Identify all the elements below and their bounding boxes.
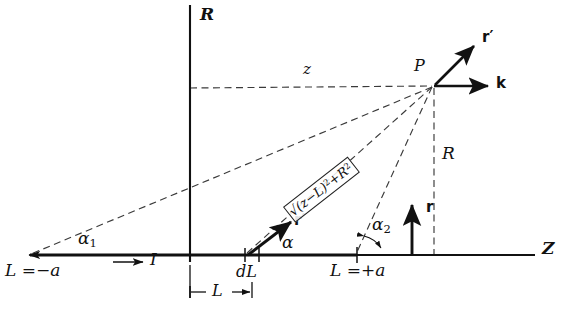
alpha-label: α bbox=[282, 234, 293, 251]
z-axis-label: Z bbox=[542, 240, 554, 257]
vector-label-r-prime-at-P: r′ bbox=[482, 30, 493, 45]
alpha1-label: α1 bbox=[78, 230, 97, 250]
vector-r-prime-at-P bbox=[435, 46, 474, 85]
alpha2-arc bbox=[364, 236, 381, 248]
vector-label-k: k bbox=[496, 76, 506, 91]
alpha2-base: α bbox=[372, 214, 383, 234]
alpha1-subscript: 1 bbox=[89, 236, 96, 250]
wire-start-label: L =−a bbox=[5, 262, 60, 279]
alpha2-subscript: 2 bbox=[383, 222, 390, 236]
dL-label: dL bbox=[236, 264, 257, 280]
physics-diagram-figure: R Z P z R r′ k r r′ α α1 α2 L =−a L =+a … bbox=[0, 0, 575, 311]
diagram-canvas bbox=[0, 0, 575, 311]
dashed-line-to-wire-end bbox=[357, 87, 432, 252]
point-p-label: P bbox=[414, 58, 425, 74]
dashed-z-line bbox=[190, 86, 432, 88]
r-axis-label: R bbox=[200, 6, 214, 23]
L-dimension-label: L bbox=[212, 283, 223, 299]
current-label: I bbox=[150, 251, 157, 268]
wire-end-label: L =+a bbox=[330, 262, 385, 279]
alpha1-base: α bbox=[78, 228, 89, 248]
R-distance-label: R bbox=[442, 145, 455, 162]
vector-label-r: r bbox=[426, 200, 433, 215]
z-distance-label: z bbox=[303, 62, 311, 77]
alpha2-label: α2 bbox=[372, 216, 391, 236]
